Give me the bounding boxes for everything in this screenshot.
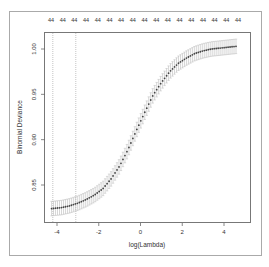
data-point — [209, 48, 211, 50]
data-point — [122, 159, 124, 161]
data-point — [144, 111, 146, 113]
top-axis-label: 44 — [212, 17, 218, 23]
data-point — [61, 207, 63, 209]
data-point — [90, 196, 92, 198]
data-point — [82, 200, 84, 202]
data-point — [197, 51, 199, 53]
data-point — [138, 124, 140, 126]
data-point — [80, 201, 82, 203]
data-point — [96, 192, 98, 194]
data-point — [132, 138, 134, 140]
data-point — [59, 207, 61, 209]
data-point — [199, 51, 201, 53]
data-point — [219, 47, 221, 49]
data-point — [78, 202, 80, 204]
data-point — [231, 46, 233, 48]
data-point — [189, 55, 191, 57]
data-point — [110, 178, 112, 180]
data-point — [182, 60, 184, 62]
data-point — [203, 50, 205, 52]
data-point — [116, 169, 118, 171]
data-point — [98, 191, 100, 193]
data-point — [104, 185, 106, 187]
top-axis-label: 44 — [177, 17, 183, 23]
data-point — [156, 89, 158, 91]
data-point — [108, 180, 110, 182]
data-point — [215, 48, 217, 50]
data-point — [152, 95, 154, 97]
data-point — [154, 92, 156, 94]
data-point — [114, 172, 116, 174]
data-point — [55, 207, 57, 209]
top-axis-label: 44 — [95, 17, 101, 23]
data-point — [217, 47, 219, 49]
data-point — [142, 116, 144, 118]
data-point — [92, 195, 94, 197]
data-point — [176, 64, 178, 66]
data-point — [168, 72, 170, 74]
x-tick-label: -2 — [96, 229, 102, 235]
data-point — [235, 45, 237, 47]
data-point — [74, 203, 76, 205]
data-point — [118, 166, 120, 168]
data-point — [221, 47, 223, 49]
top-axis-label: 44 — [118, 17, 124, 23]
data-point — [191, 54, 193, 56]
data-point — [112, 175, 114, 177]
data-point — [126, 151, 128, 153]
data-point — [162, 80, 164, 82]
data-point — [213, 48, 215, 50]
top-axis-label: 44 — [235, 17, 241, 23]
data-point — [195, 52, 197, 54]
data-point — [174, 66, 176, 68]
data-point — [102, 187, 104, 189]
data-point — [86, 198, 88, 200]
data-point — [67, 205, 69, 207]
top-axis-label: 44 — [106, 17, 112, 23]
data-point — [223, 47, 225, 49]
y-tick-label: 0.85 — [31, 179, 37, 191]
top-axis-label: 44 — [48, 17, 54, 23]
data-point — [207, 49, 209, 51]
data-point — [63, 206, 65, 208]
data-point — [172, 68, 174, 70]
data-point — [229, 46, 231, 48]
data-point — [184, 58, 186, 60]
data-point — [180, 61, 182, 63]
data-point — [233, 46, 235, 48]
top-axis-label: 44 — [60, 17, 66, 23]
top-axis-label: 44 — [71, 17, 77, 23]
y-axis-label: Binomial Deviance — [16, 100, 23, 154]
data-point — [76, 202, 78, 204]
top-axis-label: 44 — [223, 17, 229, 23]
data-point — [150, 99, 152, 101]
data-point — [211, 48, 213, 50]
data-point — [57, 207, 59, 209]
data-point — [53, 207, 55, 209]
data-point — [166, 75, 168, 77]
y-tick-label: 0.95 — [31, 88, 37, 100]
y-tick-label: 1.00 — [31, 43, 37, 55]
top-axis-label: 44 — [141, 17, 147, 23]
data-point — [148, 103, 150, 105]
data-point — [134, 133, 136, 135]
top-axis-label: 44 — [83, 17, 89, 23]
chart-figure: -4-2024 0.850.900.951.00 444444444444444… — [0, 0, 269, 267]
data-point — [130, 142, 132, 144]
data-point — [124, 155, 126, 157]
top-axis-label: 44 — [130, 17, 136, 23]
data-point — [225, 47, 227, 49]
data-point — [100, 189, 102, 191]
data-point — [186, 57, 188, 59]
data-point — [120, 162, 122, 164]
x-tick-label: -4 — [54, 229, 60, 235]
data-point — [146, 107, 148, 109]
data-point — [227, 46, 229, 48]
data-point — [158, 86, 160, 88]
top-axis-label: 44 — [188, 17, 194, 23]
top-axis-label: 44 — [200, 17, 206, 23]
y-tick-label: 0.90 — [31, 133, 37, 145]
data-point — [178, 62, 180, 64]
top-axis-label: 44 — [153, 17, 159, 23]
data-point — [170, 70, 172, 72]
